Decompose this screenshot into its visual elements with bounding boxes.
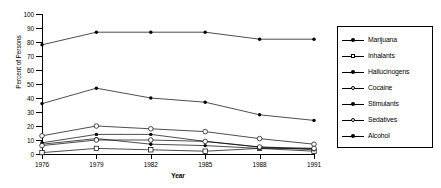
data-point [95,31,98,34]
data-point [149,148,153,152]
legend-marker-icon [342,116,364,124]
legend-item-stimulants[interactable]: Stimulants [338,96,432,112]
legend-point-icon [351,134,355,138]
legend-marker-icon [342,52,364,60]
data-point [95,133,98,136]
legend-marker-icon [342,100,364,108]
legend-item-label: Alcohol [368,132,390,140]
legend-item-inhalants[interactable]: Inhalants [338,48,432,64]
chart-root: 0102030405060708090100 19761979198219851… [0,0,441,188]
legend-item-label: Hallucinogens [368,68,409,76]
data-point [40,134,45,139]
series-line [42,148,314,152]
data-point [149,138,154,143]
data-point [94,124,99,129]
data-point [312,38,315,41]
data-point [149,143,152,146]
data-point [149,31,152,34]
series-line [42,88,314,120]
data-point [204,144,207,147]
data-point [312,119,315,122]
legend-point-icon [351,54,355,58]
data-point [94,146,98,150]
data-point [312,146,317,151]
legend-item-marijuana[interactable]: Marijuana [338,32,432,48]
legend-item-cocaine[interactable]: Cocaine [338,80,432,96]
data-point [149,133,152,136]
data-point [149,96,152,99]
data-point [203,129,208,134]
series-line [42,32,314,45]
series-marijuana [40,87,315,123]
data-point [40,102,43,105]
data-point [203,149,207,153]
legend-marker-icon [342,84,364,92]
data-point [258,38,261,41]
data-point [204,101,207,104]
data-point [40,143,45,148]
data-point [40,43,43,46]
line-chart: 0102030405060708090100 19761979198219851… [0,0,320,188]
legend-marker-icon [342,132,364,140]
series-lines-layer [0,0,320,188]
legend-marker-icon [342,68,364,76]
series-line [42,140,314,148]
legend-point-icon [351,70,355,74]
legend-point-icon [351,38,355,42]
legend-marker-icon [342,36,364,44]
data-point [258,113,261,116]
data-point [257,145,262,150]
legend-item-label: Cocaine [368,84,392,92]
data-point [149,127,154,132]
series-alcohol [40,31,315,47]
legend-item-label: Stimulants [368,100,399,108]
legend-item-alcohol[interactable]: Alcohol [338,128,432,144]
data-point [94,138,99,143]
data-point [40,150,44,154]
legend: MarijuanaInhalantsHallucinogensCocaineSt… [337,26,433,148]
legend-point-icon [351,102,355,106]
series-cocaine [40,124,317,147]
legend-item-hallucinogens[interactable]: Hallucinogens [338,64,432,80]
data-point [203,139,208,144]
legend-item-sedatives[interactable]: Sedatives [338,112,432,128]
data-point [95,87,98,90]
legend-item-label: Sedatives [368,116,397,124]
data-point [204,31,207,34]
series-hallucinogens [40,137,315,150]
legend-point-icon [351,118,355,122]
legend-item-label: Inhalants [368,52,395,60]
data-point [257,136,262,141]
legend-item-label: Marijuana [368,36,397,44]
legend-point-icon [351,86,355,90]
